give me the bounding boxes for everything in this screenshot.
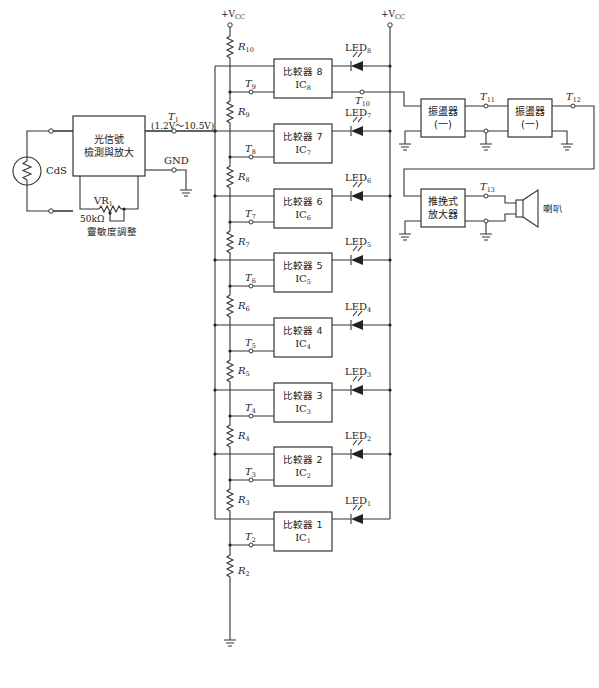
led8-label: LED8 [345,43,371,55]
vr1-label: VR1 [94,196,113,208]
comparator-2: 比較器 2IC2 [274,453,332,483]
vr1-value: 50kΩ [80,215,104,224]
r9-label: R9 [238,107,250,119]
t2-label: T2 [245,532,256,544]
cds-label: CdS [46,166,67,176]
comparator-3: 比較器 3IC3 [274,389,332,419]
t12-terminal [571,104,575,108]
t10-terminal [360,90,364,94]
comparator-4: 比較器 4IC4 [274,324,332,354]
vcc-right-terminal [388,23,392,27]
r7-label: R7 [238,237,250,249]
r5-label: R5 [238,366,250,378]
speaker-icon [516,190,538,227]
comparator-7: 比較器 7IC7 [274,130,332,160]
push-pull-amp-label: 推挽式放大器 [421,195,465,221]
comparator-6: 比較器 6IC6 [274,195,332,225]
led5-label: LED5 [345,237,371,249]
t4-label: T4 [245,403,256,415]
t3-label: T3 [245,467,256,479]
oscillator-2-label: 振盪器(一) [508,105,552,131]
cds-terminal-bottom [49,209,53,213]
r6-label: R6 [238,301,250,313]
t10-label: T10 [355,96,370,108]
t11-label: T11 [480,92,495,104]
r8-label: R8 [238,172,250,184]
gnd-terminal [172,168,176,172]
speaker-label: 喇叭 [543,204,563,214]
led1-label: LED1 [345,496,371,508]
vcc-right-label: +VCC [381,10,405,21]
t13-terminal [484,194,488,198]
comparator-5: 比較器 5IC5 [274,259,332,289]
led7-label: LED7 [345,108,371,120]
detector-label: 光信號 檢測與放大 [73,133,145,159]
gnd-label: GND [164,156,189,166]
vcc-left-terminal [228,23,232,27]
led2-label: LED2 [345,431,371,443]
r2-label: R2 [238,566,250,578]
cds-terminal-top [49,129,53,133]
ground-icon [480,133,492,150]
t11-terminal [484,104,488,108]
resistor-ladder [224,27,236,646]
comparator-8: 比較器 8IC8 [274,65,332,95]
comparator-1: 比較器 1IC1 [274,518,332,548]
led4-label: LED4 [345,302,371,314]
t12-label: T12 [566,92,581,104]
sensitivity-label: 靈敏度調整 [87,227,137,237]
t5-label: T5 [245,338,256,350]
r10-label: R10 [238,42,254,54]
t1-range-label: (1.2V～10.5V) [151,122,214,131]
t8-label: T8 [245,144,256,156]
oscillator-1-label: 振盪器(一) [421,105,465,131]
t9-label: T9 [245,79,256,91]
r3-label: R3 [238,495,250,507]
led6-label: LED6 [345,173,371,185]
r4-label: R4 [238,431,250,443]
vcc-left-label: +VCC [221,10,245,21]
t6-label: T6 [245,273,256,285]
t7-label: T7 [245,209,256,221]
led3-label: LED3 [345,367,371,379]
ground-icon [180,190,192,196]
t13-label: T13 [480,182,495,194]
